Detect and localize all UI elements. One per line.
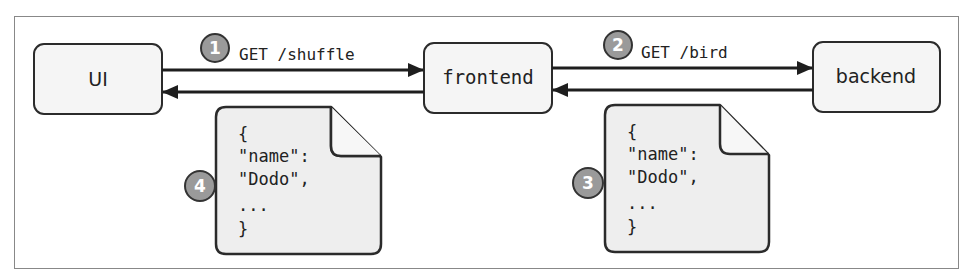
doc-3-line-2: "name":	[627, 144, 699, 164]
edge-label-2-text: GET /bird	[641, 43, 728, 62]
node-frontend-label: frontend	[442, 66, 534, 88]
doc-3-line-4: ...	[627, 193, 658, 213]
node-ui-label: UI	[88, 68, 108, 90]
svg-text:3: 3	[582, 173, 594, 193]
doc-4-line-2: "name":	[238, 146, 310, 166]
node-backend-label: backend	[836, 65, 916, 87]
doc-4-line-5: }	[238, 219, 248, 239]
edge-label-1-text: GET /shuffle	[239, 45, 355, 64]
svg-text:4: 4	[194, 176, 206, 196]
doc-4-line-4: ...	[238, 195, 269, 215]
node-backend: backend	[813, 42, 940, 112]
svg-text:1: 1	[209, 38, 221, 58]
svg-text:2: 2	[612, 35, 624, 55]
node-frontend: frontend	[424, 43, 552, 113]
doc-3-line-1: {	[627, 122, 637, 142]
doc-4-line-3: "Dodo",	[238, 169, 310, 189]
doc-4-line-1: {	[238, 124, 248, 144]
doc-3-line-5: }	[627, 217, 637, 237]
diagram: UI frontend backend 1 GET /shuffle 2 GET…	[0, 0, 973, 278]
doc-3-line-3: "Dodo",	[627, 167, 699, 187]
node-ui: UI	[34, 44, 162, 114]
